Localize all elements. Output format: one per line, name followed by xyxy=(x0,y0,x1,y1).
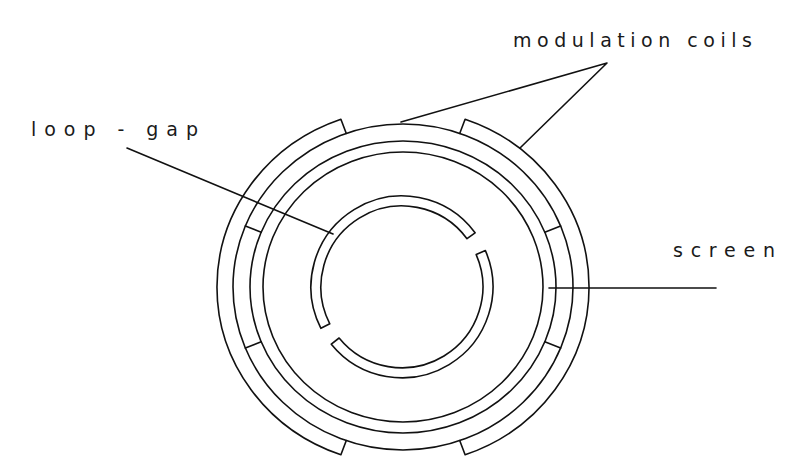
tick-right-upper xyxy=(545,226,561,232)
loop-gap-resonator-diagram: modulation coils loop - gap screen xyxy=(0,0,800,474)
label-loop-gap: loop - gap xyxy=(31,118,198,140)
leader-modulation-coils xyxy=(401,63,607,148)
left-modulation-coil xyxy=(217,119,346,455)
side-coil-ticks xyxy=(245,226,560,348)
loop-gap-segment-upper xyxy=(311,196,475,328)
diagram-canvas: modulation coils loop - gap screen xyxy=(0,0,800,474)
loop-gap-resonator xyxy=(311,196,493,378)
ring-middle-screen xyxy=(250,141,556,433)
screen-rings xyxy=(233,124,573,450)
leader-lines xyxy=(127,63,716,288)
tick-left-lower xyxy=(245,342,261,348)
tick-left-upper xyxy=(245,226,261,232)
right-modulation-coil xyxy=(460,119,589,455)
ring-inner-screen xyxy=(263,152,543,422)
loop-gap-segment-lower xyxy=(331,251,493,378)
ring-outer-screen xyxy=(233,124,573,450)
tick-right-lower xyxy=(545,342,561,348)
modulation-coils-shapes xyxy=(217,119,589,455)
label-modulation-coils: modulation coils xyxy=(513,29,752,51)
label-screen: screen xyxy=(673,239,775,261)
